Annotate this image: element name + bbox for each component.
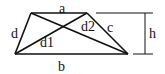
trapezoid-diagram: a b c d d1 d2 h [0,0,165,74]
label-b: b [58,59,65,74]
label-d2: d2 [81,19,95,34]
label-d: d [11,26,18,41]
label-c: c [107,20,113,35]
label-d1: d1 [40,35,54,50]
label-h: h [149,26,156,41]
label-a: a [59,1,66,16]
